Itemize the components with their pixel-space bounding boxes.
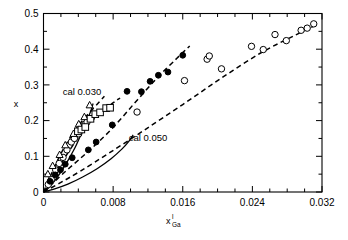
y-tick-label: 0 [33,187,39,198]
fit-curves-layer [44,24,318,192]
marker-filled-circle [62,161,68,167]
marker-filled-circle [93,139,99,145]
x-axis-title-superscript: l [172,213,174,220]
marker-open-circle [134,109,140,115]
fit-curve-fit-dashed-filled [44,46,190,192]
x-tick-label: 0.008 [101,197,126,208]
marker-open-triangle [44,170,51,176]
x-tick-label: 0 [41,197,47,208]
y-tick-label: 0.2 [25,115,39,126]
annotation-label: cal 0.030 [63,86,102,97]
y-tick-label: 0.5 [25,8,39,19]
marker-filled-circle [85,147,91,153]
series-open-triangles [44,101,93,176]
y-tick-label: 0.4 [25,44,39,55]
x-axis-title-base: x [166,216,171,226]
x-axis-tick-labels: 00.0080.0160.0240.032 [41,197,335,208]
marker-filled-circle [165,69,171,75]
series-open-circles-lower [45,21,317,188]
marker-filled-circle [180,52,186,58]
marker-open-circle [218,66,224,72]
series-filled-circles [47,52,186,184]
x-axis-title: x l Ga [166,213,181,228]
marker-filled-circle [47,178,53,184]
fit-curve-fit-dashed-lower [44,24,318,192]
marker-open-circle [272,31,278,37]
marker-filled-circle [147,78,153,84]
marker-open-circle [181,77,187,83]
marker-filled-circle [69,155,75,161]
marker-filled-circle [52,172,58,178]
minor-tickmarks [44,14,323,193]
marker-open-circle [283,37,289,43]
marker-open-circle [56,160,62,166]
annotation-label: cal 0.050 [129,132,168,143]
major-tickmarks [44,14,323,193]
marker-filled-circle [124,88,130,94]
marker-open-circle [260,46,266,52]
marker-open-circle [298,27,304,33]
chart-axes [44,14,323,193]
x-tick-label: 0.016 [170,197,195,208]
figure-panel: 00.0080.0160.0240.032 00.10.20.30.40.5 c… [0,0,348,240]
plot-frame [44,14,323,193]
x-tick-label: 0.032 [309,197,334,208]
marker-open-circle [248,43,254,49]
marker-open-circle [206,53,212,59]
y-tick-label: 0.3 [25,80,39,91]
marker-filled-circle [139,89,145,95]
marker-open-square [82,124,89,131]
x-axis-title-subscript: Ga [172,221,181,228]
marker-open-square [107,104,114,111]
scatter-chart: 00.0080.0160.0240.032 00.10.20.30.40.5 c… [0,0,348,240]
marker-open-circle [304,25,310,31]
y-tick-label: 0.1 [25,151,39,162]
marker-open-circle [311,21,317,27]
x-tick-label: 0.024 [240,197,265,208]
marker-open-triangle [86,101,93,107]
marker-filled-circle [109,122,115,128]
data-points-layer [44,21,317,188]
y-axis-tick-labels: 00.10.20.30.40.5 [25,8,39,198]
marker-filled-circle [155,72,161,78]
marker-filled-circle [58,167,64,173]
y-axis-title: x [14,99,19,109]
